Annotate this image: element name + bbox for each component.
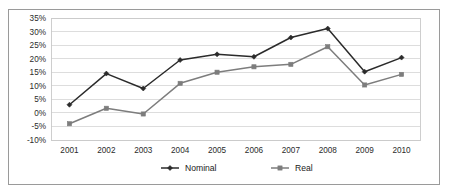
x-axis-tick-label: 2001 [60, 146, 79, 155]
data-point-marker [326, 45, 330, 49]
y-axis-tick-label: 35% [30, 14, 46, 23]
x-axis-tick-label: 2002 [97, 146, 116, 155]
data-point-marker [399, 72, 403, 76]
data-point-marker [252, 65, 256, 69]
y-axis-tick-label: 15% [30, 68, 46, 77]
chart-plot-container: 35%30%25%20%15%10%5%0%-5%-10% 2001200220… [9, 10, 439, 184]
x-axis-tick-label: 2005 [208, 146, 227, 155]
x-axis-tick-label: 2007 [282, 146, 301, 155]
data-point-marker [168, 166, 173, 171]
y-axis-tick-label: 20% [30, 55, 46, 64]
data-point-marker [363, 83, 367, 87]
series-real [67, 45, 403, 126]
y-axis-tick-label: -5% [31, 122, 46, 131]
data-point-marker [104, 106, 108, 110]
y-axis-tick-label: 5% [34, 95, 46, 104]
data-point-marker [67, 122, 71, 126]
x-axis-tick-label: 2009 [356, 146, 375, 155]
plot-border [51, 18, 420, 140]
gridlines-group [51, 18, 420, 140]
x-axis-tick-label: 2004 [171, 146, 190, 155]
x-axis-tick-label: 2008 [319, 146, 338, 155]
chart-legend: NominalReal [161, 163, 313, 173]
x-axis-tick-label: 2006 [245, 146, 264, 155]
series-line-nominal [69, 29, 401, 105]
y-axis-tick-label: -10% [27, 136, 46, 145]
legend-label-real: Real [295, 163, 313, 173]
y-axis-tick-labels: 35%30%25%20%15%10%5%0%-5%-10% [27, 14, 46, 145]
data-point-marker [178, 81, 182, 85]
series-nominal [67, 26, 404, 107]
chart-frame: 35%30%25%20%15%10%5%0%-5%-10% 2001200220… [8, 9, 440, 185]
y-axis-tick-label: 25% [30, 41, 46, 50]
data-point-marker [215, 70, 219, 74]
x-axis-tick-label: 2003 [134, 146, 153, 155]
x-axis-tick-labels: 2001200220032004200520062007200820092010 [60, 146, 411, 155]
x-axis-tick-label: 2010 [392, 146, 411, 155]
y-axis-tick-label: 0% [34, 109, 46, 118]
y-axis-tick-label: 10% [30, 82, 46, 91]
data-point-marker [215, 52, 220, 57]
data-point-marker [399, 55, 404, 60]
y-axis-tick-label: 30% [30, 28, 46, 37]
legend-label-nominal: Nominal [185, 163, 217, 173]
data-point-marker [141, 112, 145, 116]
plot-area-border [51, 18, 420, 140]
data-point-marker [289, 62, 293, 66]
line-chart: 35%30%25%20%15%10%5%0%-5%-10% 2001200220… [9, 10, 439, 184]
data-point-marker [278, 166, 282, 170]
